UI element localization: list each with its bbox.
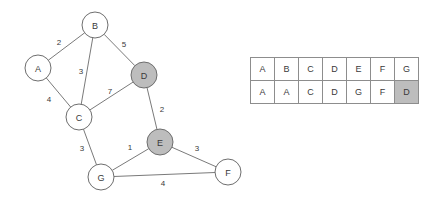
graph-edge-c-g <box>83 129 96 165</box>
graph-edge-g-e <box>112 149 149 171</box>
sequence-table: ABCDEFG AACDGFD <box>250 57 419 104</box>
edge-weight-g-e: 1 <box>128 143 133 152</box>
edge-weight-a-c: 4 <box>47 95 52 104</box>
table-value-cell-0: A <box>251 81 275 104</box>
edge-weight-c-d: 7 <box>108 87 113 96</box>
node-label-g: G <box>97 173 104 183</box>
graph-node-a[interactable]: A <box>25 55 51 81</box>
graph-edge-a-b <box>48 33 84 60</box>
table-value-cell-1: A <box>275 81 299 104</box>
graph-node-b[interactable]: B <box>82 12 108 38</box>
graph-edge-g-f <box>114 173 215 177</box>
table-header-row: ABCDEFG <box>251 58 419 81</box>
node-label-d: D <box>141 71 148 81</box>
table-value-cell-3: D <box>323 81 347 104</box>
edge-weight-b-d: 5 <box>122 40 127 49</box>
edge-weight-g-f: 4 <box>161 179 166 188</box>
graph-edge-d-e <box>147 88 157 130</box>
graph-node-e[interactable]: E <box>147 129 173 155</box>
figure-root: 2534723134 ABCDEFG ABCDEFG AACDGFD <box>0 0 440 207</box>
table-header-cell-4: E <box>347 58 371 81</box>
edge-weight-c-g: 3 <box>80 144 85 153</box>
node-label-f: F <box>225 168 231 178</box>
graph-node-d[interactable]: D <box>131 62 157 88</box>
table-header-cell-6: G <box>395 58 419 81</box>
table-value-cell-4: G <box>347 81 371 104</box>
node-label-b: B <box>92 21 98 31</box>
table-header-cell-2: C <box>299 58 323 81</box>
graph-node-g[interactable]: G <box>88 164 114 190</box>
table-value-cell-5: F <box>371 81 395 104</box>
table-header-cell-3: D <box>323 58 347 81</box>
table-header-cell-1: B <box>275 58 299 81</box>
edge-weight-e-f: 3 <box>195 144 200 153</box>
table-header-cell-0: A <box>251 58 275 81</box>
graph-edge-b-d <box>104 34 135 65</box>
node-label-e: E <box>157 138 163 148</box>
table-value-row: AACDGFD <box>251 81 419 104</box>
table-header-cell-5: F <box>371 58 395 81</box>
graph-node-c[interactable]: C <box>66 104 92 130</box>
sequence-table-container: ABCDEFG AACDGFD <box>250 57 419 104</box>
graph-node-f[interactable]: F <box>215 159 241 185</box>
edge-weight-b-c: 3 <box>79 67 84 76</box>
node-label-c: C <box>76 113 83 123</box>
table-value-cell-6-highlighted: D <box>395 81 419 104</box>
table-value-cell-2: C <box>299 81 323 104</box>
edge-weight-d-e: 2 <box>160 105 165 114</box>
edge-weight-a-b: 2 <box>57 38 62 47</box>
node-label-a: A <box>35 64 41 74</box>
graph-edges-layer <box>46 33 216 177</box>
